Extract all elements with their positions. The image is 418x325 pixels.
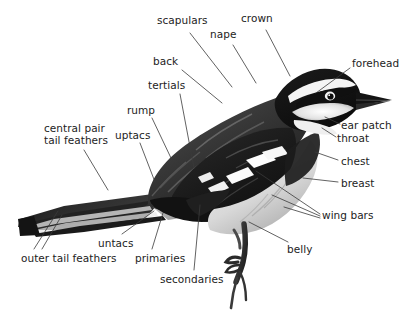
leader-scapulars bbox=[190, 33, 232, 87]
label-wing-bars: wing bars bbox=[322, 210, 374, 222]
leader-back bbox=[182, 70, 222, 103]
label-back: back bbox=[153, 56, 178, 68]
label-primaries: primaries bbox=[135, 253, 185, 265]
label-untacs: untacs bbox=[98, 238, 133, 250]
leader-uptacs bbox=[140, 143, 155, 182]
label-forehead: forehead bbox=[352, 58, 399, 70]
label-ear-patch: ear patch bbox=[341, 120, 392, 132]
leader-ctf bbox=[84, 150, 108, 190]
label-outer-tail-feathers: outer tail feathers bbox=[21, 253, 117, 265]
bird-leg-and-foot bbox=[226, 224, 246, 308]
leader-chest bbox=[315, 152, 338, 160]
label-tertials: tertials bbox=[148, 80, 185, 92]
label-rump: rump bbox=[127, 105, 155, 117]
label-throat: throat bbox=[337, 133, 369, 145]
leader-crown bbox=[266, 30, 290, 76]
leader-rump bbox=[152, 118, 171, 158]
bird-tail bbox=[18, 193, 166, 237]
label-central-pair-tail-feathers: central pair tail feathers bbox=[44, 122, 108, 146]
eye-highlight bbox=[328, 94, 330, 96]
label-chest: chest bbox=[341, 156, 370, 168]
label-belly: belly bbox=[287, 244, 312, 256]
eye-pupil bbox=[327, 93, 333, 99]
label-uptacs: uptacs bbox=[115, 130, 150, 142]
label-breast: breast bbox=[341, 178, 375, 190]
label-nape: nape bbox=[210, 29, 236, 41]
bird-anatomy-diagram: scapularsnapecrownforeheadbacktertialsru… bbox=[0, 0, 418, 325]
label-secondaries: secondaries bbox=[160, 274, 224, 286]
leader-wingbars-3 bbox=[284, 207, 320, 218]
leader-nape bbox=[233, 45, 256, 83]
label-scapulars: scapulars bbox=[157, 15, 208, 27]
label-crown: crown bbox=[241, 13, 273, 25]
